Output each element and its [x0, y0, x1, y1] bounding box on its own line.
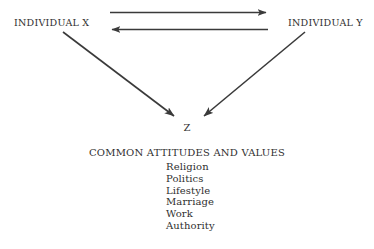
list-item: Religion: [0, 161, 374, 173]
common-values-list: Religion Politics Lifestyle Marriage Wor…: [0, 161, 374, 232]
node-label-z: Z: [0, 122, 374, 133]
node-label-individual-y: INDIVIDUAL Y: [288, 17, 363, 28]
node-label-individual-x: INDIVIDUAL X: [14, 17, 89, 28]
list-item: Politics: [0, 173, 374, 185]
list-item: Marriage: [0, 196, 374, 208]
list-item: Authority: [0, 220, 374, 232]
list-item: Work: [0, 208, 374, 220]
x-to-z-arrow: [63, 32, 174, 116]
list-item: Lifestyle: [0, 185, 374, 197]
common-values-block: COMMON ATTITUDES AND VALUES Religion Pol…: [0, 146, 374, 232]
common-values-heading: COMMON ATTITUDES AND VALUES: [0, 146, 374, 159]
y-to-z-arrow: [204, 32, 305, 116]
